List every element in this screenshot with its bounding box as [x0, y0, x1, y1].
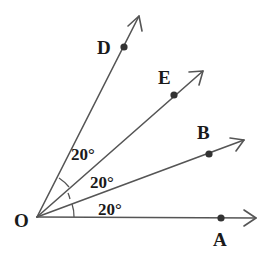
angle-label-boe: 20° — [90, 173, 114, 192]
point-b — [205, 150, 212, 157]
angle-diagram: O A B E D 20° 20° 20° — [0, 0, 269, 263]
arc-boe — [68, 193, 70, 199]
label-e: E — [158, 67, 171, 88]
label-d: D — [97, 37, 111, 58]
point-e — [170, 91, 177, 98]
point-d — [120, 43, 127, 50]
point-a — [217, 214, 224, 221]
ray-ob — [37, 138, 244, 217]
label-b: B — [197, 122, 210, 143]
angle-label-eod: 20° — [71, 145, 95, 164]
label-o: O — [14, 210, 29, 231]
diagram-canvas: O A B E D 20° 20° 20° — [0, 0, 269, 263]
ray-oe — [37, 71, 203, 217]
arc-aob — [72, 204, 74, 217]
label-a: A — [213, 229, 227, 250]
angle-label-aob: 20° — [98, 200, 122, 219]
ray-oa — [37, 210, 256, 226]
arc-eod — [59, 178, 69, 187]
